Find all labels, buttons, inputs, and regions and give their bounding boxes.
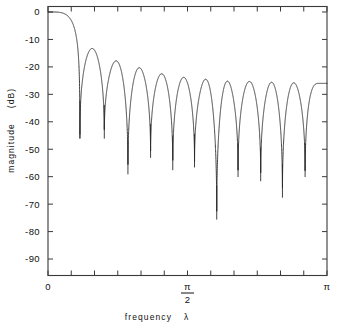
- y-tick-label: 0: [34, 6, 40, 17]
- pi-numerator: π: [184, 281, 191, 292]
- y-tick-label: -60: [25, 171, 40, 182]
- x-axis-ticks: [48, 7, 327, 276]
- plot-border: [48, 7, 327, 276]
- plot-frame: [48, 7, 327, 276]
- x-axis-title: frequency λ: [125, 312, 190, 322]
- response-curve: [48, 12, 327, 219]
- x-axis-title-text: frequency: [125, 312, 172, 322]
- x-tick-label-pi-over-two: π 2: [181, 281, 194, 305]
- y-axis-title-units: (dB): [6, 88, 16, 108]
- y-tick-label: -10: [25, 34, 40, 45]
- y-axis-title-text: magnitude: [6, 123, 16, 173]
- y-tick-label: -50: [25, 144, 40, 155]
- x-tick-label-zero: 0: [45, 281, 51, 292]
- y-axis-tick-labels: 0-10-20-30-40-50-60-70-80-90: [25, 6, 40, 264]
- y-axis-ticks: [48, 12, 327, 259]
- y-tick-label: -90: [25, 253, 40, 264]
- pi-denominator: 2: [185, 294, 191, 305]
- y-tick-label: -30: [25, 89, 40, 100]
- y-axis-title: magnitude (dB): [6, 88, 16, 173]
- y-tick-label: -70: [25, 199, 40, 210]
- x-tick-label-pi: π: [324, 281, 331, 292]
- magnitude-response-line: [48, 12, 327, 219]
- magnitude-response-chart: 0-10-20-30-40-50-60-70-80-90 0 π π 2 fre…: [0, 0, 345, 328]
- y-tick-label: -20: [25, 61, 40, 72]
- y-tick-label: -40: [25, 116, 40, 127]
- x-axis-title-symbol: λ: [184, 312, 189, 322]
- y-tick-label: -80: [25, 226, 40, 237]
- figure-root: 0-10-20-30-40-50-60-70-80-90 0 π π 2 fre…: [0, 0, 345, 328]
